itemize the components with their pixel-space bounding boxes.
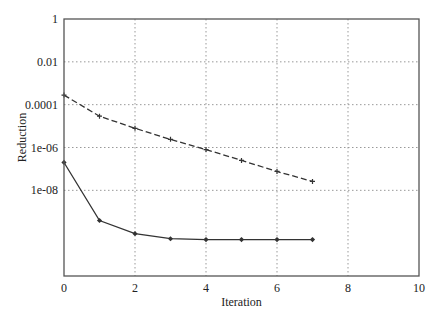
y-tick-label: 1e-08 — [31, 183, 58, 197]
diamond-marker-icon — [132, 231, 137, 236]
y-tick-label: 1 — [52, 12, 58, 26]
plus-marker-icon — [310, 179, 315, 184]
x-tick-label: 0 — [61, 281, 67, 295]
y-axis-ticks: 10.010.00011e-061e-08 — [25, 12, 58, 197]
x-tick-label: 10 — [413, 281, 425, 295]
series-line-dashed — [64, 95, 313, 181]
y-axis-title: Reduction — [15, 113, 29, 162]
diamond-marker-icon — [168, 236, 173, 241]
reduction-vs-iteration-chart: 0246810 10.010.00011e-061e-08 Iteration … — [0, 0, 442, 315]
x-axis-ticks: 0246810 — [61, 281, 425, 295]
series-line-solid — [64, 163, 313, 240]
diamond-marker-icon — [274, 237, 279, 242]
plus-marker-icon — [239, 158, 244, 163]
diamond-marker-icon — [203, 237, 208, 242]
x-tick-label: 2 — [132, 281, 138, 295]
y-tick-label: 0.0001 — [25, 98, 58, 112]
plus-marker-icon — [133, 126, 138, 131]
x-tick-label: 8 — [345, 281, 351, 295]
x-tick-label: 4 — [203, 281, 209, 295]
plus-marker-icon — [168, 137, 173, 142]
y-tick-label: 1e-06 — [31, 141, 58, 155]
plus-marker-icon — [275, 169, 280, 174]
y-tick-label: 0.01 — [37, 55, 58, 69]
diamond-marker-icon — [239, 237, 244, 242]
x-axis-title: Iteration — [221, 295, 262, 309]
diamond-marker-icon — [310, 237, 315, 242]
x-tick-label: 6 — [274, 281, 280, 295]
